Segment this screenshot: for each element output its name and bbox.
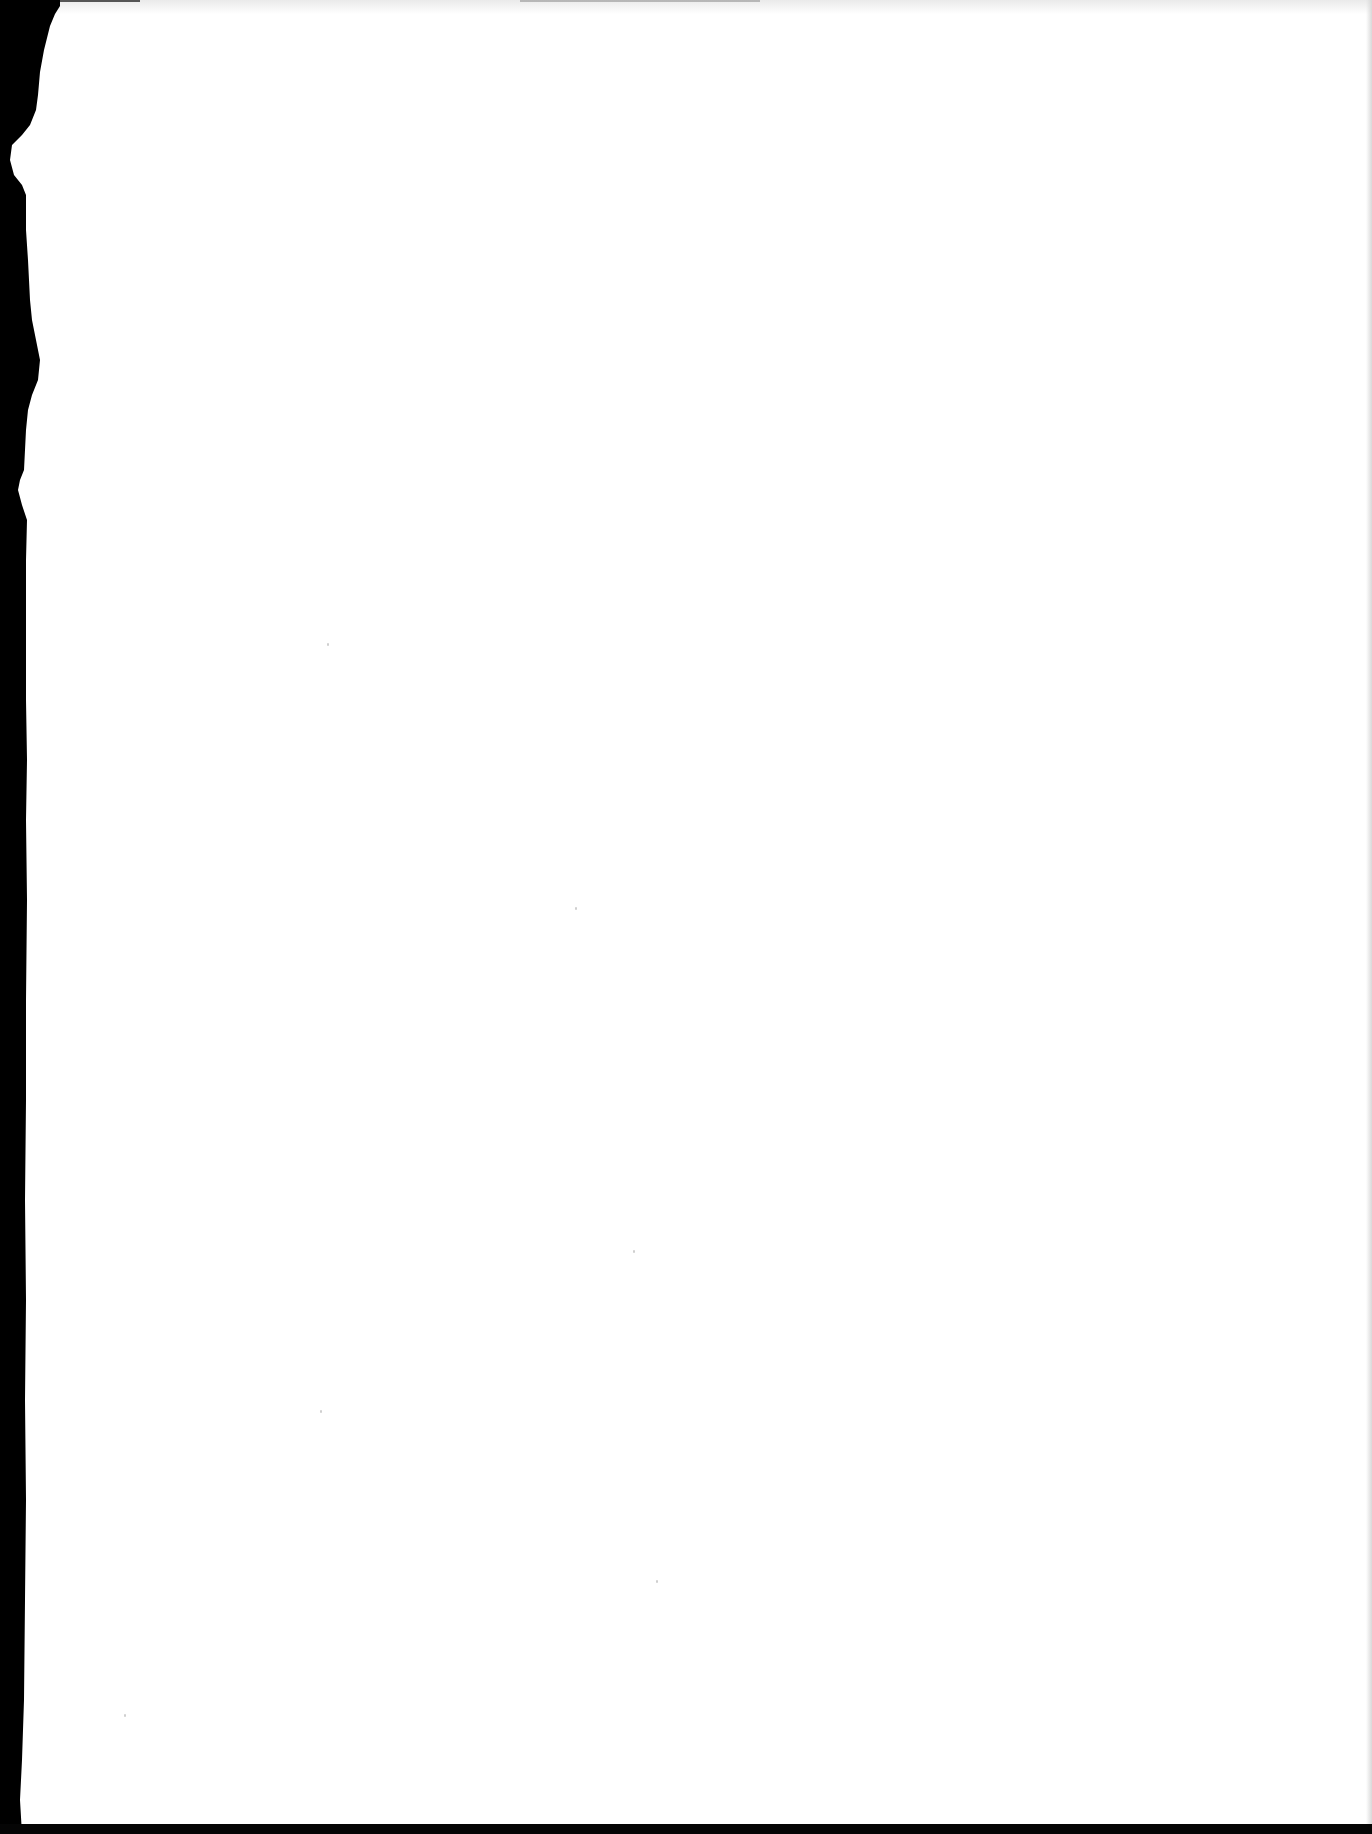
right-edge-shadow [1366, 0, 1372, 1834]
scanned-page [0, 0, 1372, 1834]
scan-speck [320, 1410, 322, 1413]
scan-speck [633, 1250, 635, 1253]
top-edge-mark [520, 0, 760, 2]
scan-speck [124, 1714, 126, 1717]
scan-speck [327, 643, 329, 646]
top-edge-shadow [0, 0, 1372, 14]
paper-sheet [0, 0, 1372, 1826]
page-content [80, 60, 1312, 1766]
scan-speck [575, 907, 577, 910]
top-edge-mark [60, 0, 140, 2]
bottom-edge [0, 1824, 1372, 1834]
torn-left-edge [0, 0, 60, 1834]
scan-speck [656, 1580, 658, 1583]
